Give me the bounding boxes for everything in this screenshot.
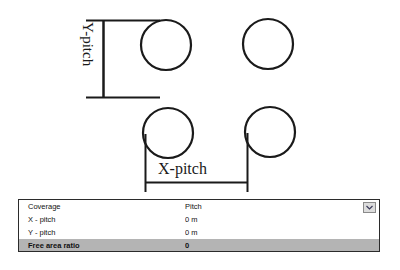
row-label-free-area-ratio: Free area ratio <box>19 239 185 252</box>
table-row[interactable]: Coverage Pitch <box>19 200 379 213</box>
x-pitch-label: X-pitch <box>158 160 207 178</box>
circle-bottom-right <box>245 107 295 157</box>
circle-top-left <box>141 20 191 70</box>
table-row-selected[interactable]: Free area ratio 0 <box>19 239 379 252</box>
row-value-x-pitch[interactable]: 0 m <box>185 213 379 226</box>
row-value-y-pitch[interactable]: 0 m <box>185 226 379 239</box>
circle-bottom-left <box>143 108 193 158</box>
row-label-coverage: Coverage <box>19 200 185 213</box>
table-row[interactable]: Y - pitch 0 m <box>19 226 379 239</box>
row-value-free-area-ratio[interactable]: 0 <box>185 239 379 252</box>
y-pitch-label: Y-pitch <box>79 22 96 66</box>
coverage-properties-table[interactable]: Coverage Pitch X - pitch 0 m Y - pitch 0… <box>18 199 380 252</box>
row-value-coverage[interactable]: Pitch <box>185 200 379 213</box>
table-row[interactable]: X - pitch 0 m <box>19 213 379 226</box>
pitch-layout-diagram: Y-pitch X-pitch <box>0 0 400 196</box>
row-label-x-pitch: X - pitch <box>19 213 185 226</box>
chevron-down-icon[interactable] <box>363 202 376 213</box>
circle-top-right <box>243 19 293 69</box>
row-label-y-pitch: Y - pitch <box>19 226 185 239</box>
